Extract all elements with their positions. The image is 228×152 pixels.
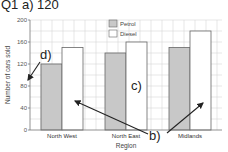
bar-north-west-diesel bbox=[62, 48, 83, 131]
annotation-b: b) bbox=[149, 128, 161, 143]
ytick-40: 40 bbox=[20, 105, 27, 111]
legend-swatch-petrol bbox=[109, 20, 117, 27]
ytick-80: 80 bbox=[20, 83, 27, 89]
bar-north-east-petrol bbox=[105, 53, 126, 130]
category-midlands: Midlands bbox=[178, 133, 202, 139]
ytick-120: 120 bbox=[17, 61, 28, 67]
category-north-west: North West bbox=[47, 133, 77, 139]
legend: Petrol Diesel bbox=[109, 20, 137, 37]
annotation-d: d) bbox=[40, 47, 52, 62]
bars bbox=[41, 31, 211, 130]
bar-midlands-petrol bbox=[169, 48, 190, 131]
bar-chart: 200 160 120 80 40 0 Number of cars sold … bbox=[0, 0, 228, 152]
legend-label-diesel: Diesel bbox=[120, 31, 137, 37]
annotation-c: c) bbox=[131, 78, 142, 93]
bar-midlands-diesel bbox=[190, 31, 211, 130]
ytick-0: 0 bbox=[24, 127, 28, 133]
y-axis-label: Number of cars sold bbox=[4, 46, 11, 105]
legend-swatch-diesel bbox=[109, 30, 117, 37]
category-north-east: North East bbox=[112, 133, 141, 139]
legend-label-petrol: Petrol bbox=[120, 21, 136, 27]
x-axis-label: Region bbox=[116, 142, 137, 150]
ytick-160: 160 bbox=[17, 39, 28, 45]
bar-north-west-petrol bbox=[41, 64, 62, 130]
ytick-200: 200 bbox=[17, 17, 28, 23]
